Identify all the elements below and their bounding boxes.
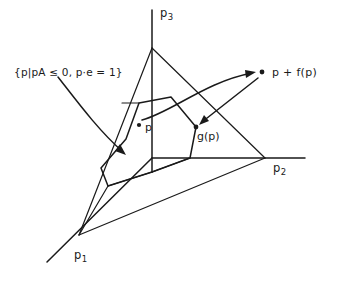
polytope-connector-lower [79,186,108,235]
axis-label-p3: p3 [160,8,173,20]
arrow-p-plus-f-to-g-head [199,115,209,125]
arrow-feasible-set [58,77,126,155]
dot-p-plus-f-of-p [260,70,265,75]
feasible-polytope [79,97,196,235]
polytope-connector-right [108,172,152,186]
diagram-canvas [0,0,341,284]
polytope-connector-base [152,158,190,172]
dot-p [137,123,141,127]
axis-p1 [47,158,152,262]
arrow-p-plus-f-to-g-path [202,78,258,122]
simplex-edge-p1-p2 [79,158,265,235]
point-label-p: p [145,122,152,133]
axis-label-p2: p2 [273,163,286,175]
arrow-feasible-set-path [58,77,123,152]
figure-root: p1 p2 p3 p g(p) p + f(p) {p|pA ≤ 0, p·e … [0,0,341,284]
arrow-p-to-p-plus-f-head [245,70,256,78]
point-label-p-plus-f-of-p: p + f(p) [272,67,317,78]
point-label-g-of-p: g(p) [197,131,220,142]
axis-label-p1: p1 [74,250,87,262]
annotation-feasible-set: {p|pA ≤ 0, p·e = 1} [14,67,123,78]
dot-g-of-p [194,125,199,130]
arrow-p-to-p-plus-f [142,70,256,120]
arrow-p-plus-f-to-g [199,78,258,125]
